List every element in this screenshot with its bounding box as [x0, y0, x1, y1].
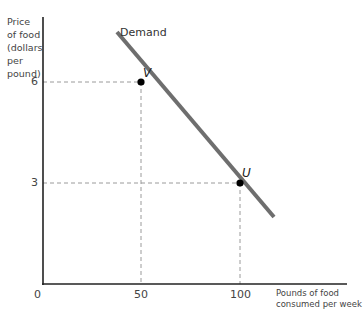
chart-plot [0, 0, 363, 321]
origin-label: 0 [34, 288, 41, 301]
x-axis-label-line: consumed per week [276, 299, 362, 310]
y-tick-3: 3 [31, 176, 38, 189]
point-u-marker [236, 179, 243, 186]
x-axis-label-line: Pounds of food [276, 288, 362, 299]
x-axis-label: Pounds of food consumed per week [276, 288, 362, 310]
x-tick-50: 50 [134, 288, 148, 301]
x-tick-100: 100 [230, 288, 251, 301]
demand-label: Demand [120, 26, 167, 39]
point-u-label: U [242, 166, 251, 180]
y-tick-6: 6 [31, 75, 38, 88]
point-v-label: V [143, 66, 151, 80]
guide-lines [43, 82, 240, 284]
